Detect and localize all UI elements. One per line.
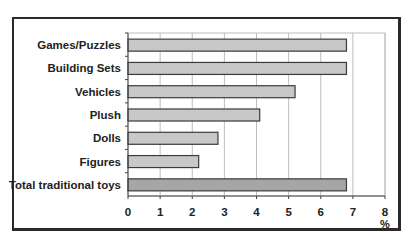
x-tick-label: 2 [189, 206, 195, 218]
category-label: Vehicles [75, 86, 121, 98]
x-tick-label: 6 [318, 206, 324, 218]
bar [128, 156, 199, 168]
x-tick-label: 4 [253, 206, 260, 218]
bar [128, 109, 260, 121]
x-tick-label: 1 [157, 206, 164, 218]
x-tick-label: 0 [125, 206, 131, 218]
bar [128, 179, 346, 191]
bar [128, 132, 218, 144]
category-label: Dolls [93, 132, 121, 144]
category-label: Total traditional toys [9, 179, 121, 191]
x-tick-label: 3 [221, 206, 227, 218]
bar-chart: Games/PuzzlesBuilding SetsVehiclesPlushD… [0, 0, 414, 242]
category-label: Games/Puzzles [37, 39, 121, 51]
bar [128, 62, 346, 74]
x-tick-label: 5 [285, 206, 292, 218]
x-axis-unit-label: % [380, 218, 390, 230]
x-tick-label: 7 [350, 206, 356, 218]
x-tick-label: 8 [382, 206, 389, 218]
category-label: Figures [79, 156, 121, 168]
category-label: Building Sets [48, 62, 121, 74]
bar [128, 86, 295, 98]
bar [128, 39, 346, 51]
category-label: Plush [90, 109, 121, 121]
